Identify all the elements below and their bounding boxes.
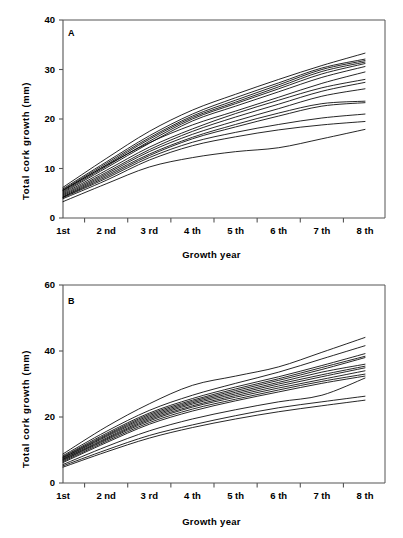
panel-label-b: B <box>68 296 75 306</box>
x-tick-label: 7 th <box>313 490 330 501</box>
x-tick-label: 3 rd <box>141 490 159 501</box>
y-tick-label: 30 <box>44 64 55 75</box>
data-line <box>63 121 365 198</box>
line-chart-b: 02040601st2 nd3 rd4 th5 th6 th7 th8 th <box>0 268 403 538</box>
x-tick-label: 4 th <box>184 225 201 236</box>
x-tick-label: 2 nd <box>96 490 116 501</box>
y-tick-label: 40 <box>44 14 55 25</box>
data-line <box>63 82 365 194</box>
x-tick-label: 4 th <box>184 490 201 501</box>
y-tick-label: 10 <box>44 163 55 174</box>
figure-container: 0102030401st2 nd3 rd4 th5 th6 th7 th8 th… <box>0 0 403 538</box>
x-tick-label: 8 th <box>357 225 374 236</box>
x-tick-label: 1st <box>56 490 71 501</box>
y-tick-label: 20 <box>44 411 55 422</box>
x-tick-label: 6 th <box>270 490 287 501</box>
data-line <box>63 114 365 198</box>
x-tick-label: 7 th <box>313 225 330 236</box>
y-tick-label: 0 <box>50 477 55 488</box>
y-tick-label: 0 <box>50 212 55 223</box>
series-group <box>63 337 365 467</box>
data-line <box>63 354 365 457</box>
data-line <box>63 396 365 466</box>
line-chart-a: 0102030401st2 nd3 rd4 th5 th6 th7 th8 th <box>0 0 403 270</box>
y-tick-label: 20 <box>44 113 55 124</box>
x-tick-label: 6 th <box>270 225 287 236</box>
data-line <box>63 371 365 461</box>
series-group <box>63 53 365 201</box>
data-line <box>63 101 365 197</box>
panel-label-a: A <box>68 28 75 38</box>
y-tick-label: 60 <box>44 279 55 290</box>
x-tick-label: 1st <box>56 225 71 236</box>
x-tick-label: 2 nd <box>96 225 116 236</box>
y-tick-label: 40 <box>44 345 55 356</box>
plot-area-b: 02040601st2 nd3 rd4 th5 th6 th7 th8 th <box>0 268 403 538</box>
y-axis-title-b: Total cork growth (mm) <box>20 350 31 468</box>
x-tick-label: 5 th <box>227 490 244 501</box>
data-line <box>63 67 365 193</box>
data-line <box>63 374 365 461</box>
chart-panel-b: 02040601st2 nd3 rd4 th5 th6 th7 th8 th <box>0 268 403 538</box>
x-tick-label: 3 rd <box>141 225 159 236</box>
y-axis-title-a: Total cork growth (mm) <box>20 82 31 200</box>
chart-panel-a: 0102030401st2 nd3 rd4 th5 th6 th7 th8 th… <box>0 0 403 270</box>
x-tick-label: 8 th <box>357 490 374 501</box>
x-tick-label: 5 th <box>227 225 244 236</box>
data-line <box>63 364 365 458</box>
plot-area-a: 0102030401st2 nd3 rd4 th5 th6 th7 th8 th <box>0 0 403 270</box>
x-axis-title-b: Growth year <box>10 516 403 527</box>
x-axis-title-a: Growth year <box>10 249 403 260</box>
